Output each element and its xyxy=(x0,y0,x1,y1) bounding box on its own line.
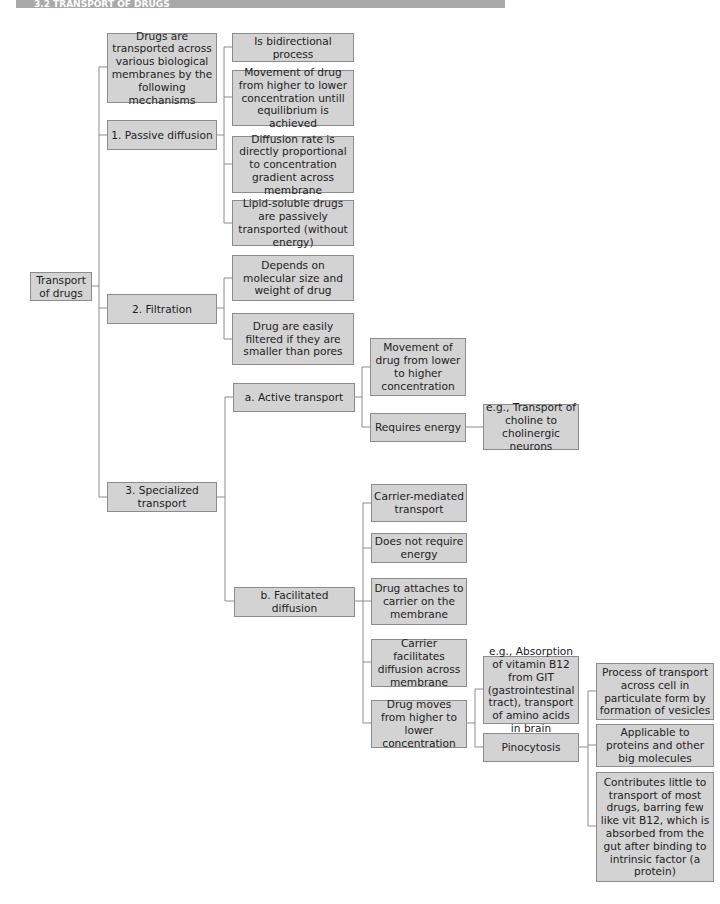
node-facilitated-2: Does not require energy xyxy=(371,533,467,563)
node-pinocytosis-3: Contributes little to transport of most … xyxy=(596,772,714,882)
node-facilitated-3: Drug attaches to carrier on the membrane xyxy=(371,578,467,625)
node-facilitated-diffusion: b. Facilitated diffusion xyxy=(234,587,355,617)
node-active-1: Movement of drug from lower to higher co… xyxy=(370,338,466,396)
node-pinocytosis-2: Applicable to proteins and other big mol… xyxy=(596,724,714,767)
node-facilitated-4: Carrier facilitates diffusion across mem… xyxy=(371,639,467,687)
node-active-2-example: e.g., Transport of choline to cholinergi… xyxy=(483,404,579,450)
node-root: Transport of drugs xyxy=(30,272,92,301)
node-specialized-transport: 3. Specialized transport xyxy=(107,482,217,512)
node-filtration-2: Drug are easily filtered if they are sma… xyxy=(232,313,354,365)
node-intro: Drugs are transported across various bio… xyxy=(107,33,217,103)
node-facilitated-1: Carrier-mediated transport xyxy=(371,484,467,522)
node-filtration-1: Depends on molecular size and weight of … xyxy=(232,255,354,301)
node-passive-diffusion: 1. Passive diffusion xyxy=(107,120,217,150)
node-pinocytosis: Pinocytosis xyxy=(483,733,579,762)
node-passive-1: Is bidirectional process xyxy=(232,33,354,62)
node-facilitated-5-example: e.g., Absorption of vitamin B12 from GIT… xyxy=(483,656,579,724)
node-passive-4: Lipid-soluble drugs are passively transp… xyxy=(232,200,354,246)
node-active-2: Requires energy xyxy=(370,413,466,442)
node-passive-3: Diffusion rate is directly proportional … xyxy=(232,136,354,193)
node-pinocytosis-1: Process of transport across cell in part… xyxy=(596,663,714,720)
node-facilitated-5: Drug moves from higher to lower concentr… xyxy=(371,700,467,748)
node-active-transport: a. Active transport xyxy=(233,383,355,412)
node-passive-2: Movement of drug from higher to lower co… xyxy=(232,70,354,126)
node-filtration: 2. Filtration xyxy=(107,294,217,324)
